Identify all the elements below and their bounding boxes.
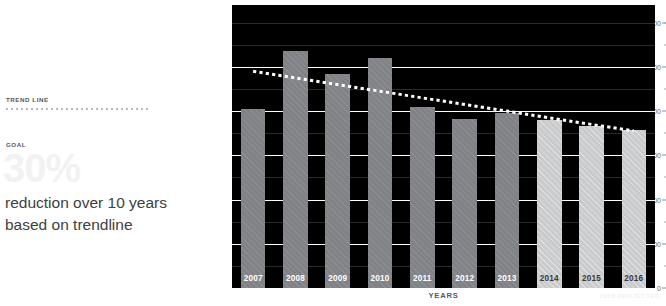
bar-year-label: 2016 <box>622 274 647 283</box>
plot-area: 2007200820092010201120122013201420152016 <box>232 5 655 288</box>
bar-year-label: 2011 <box>410 274 435 283</box>
bar: 2009 <box>325 74 350 288</box>
trend-line-legend-swatch <box>6 108 148 110</box>
bar: 2010 <box>368 58 393 288</box>
gridline-minor <box>232 45 655 46</box>
y-tick-mark <box>662 288 666 289</box>
bar: 2016 <box>622 130 647 288</box>
x-axis-title: YEARS <box>232 291 655 300</box>
trend-line-legend-label: TREND LINE <box>6 96 49 103</box>
bar-year-label: 2015 <box>579 274 604 283</box>
emissions-chart: TONNES CO2e 02,0004,0006,0008,00010,0001… <box>195 0 666 306</box>
y-tick-label: 0 <box>657 285 661 292</box>
bar: 2007 <box>241 109 266 288</box>
bar-year-label: 2009 <box>325 274 350 283</box>
bar: 2012 <box>452 119 477 288</box>
bar-year-label: 2010 <box>368 274 393 283</box>
bar-year-label: 2013 <box>495 274 520 283</box>
bar: 2013 <box>495 113 520 288</box>
projected-note: 2016 PROJECTED <box>600 292 660 299</box>
y-tick-mark <box>662 243 666 244</box>
goal-percentage: 30% <box>3 148 80 188</box>
y-tick-mark <box>662 66 666 67</box>
bar: 2015 <box>579 126 604 289</box>
goal-description: reduction over 10 years based on trendli… <box>5 192 195 236</box>
bar-year-label: 2008 <box>283 274 308 283</box>
gridline-minor <box>232 23 655 24</box>
bar-year-label: 2014 <box>537 274 562 283</box>
bar: 2014 <box>537 120 562 288</box>
y-tick-mark <box>662 199 666 200</box>
y-tick-mark <box>662 155 666 156</box>
y-tick-mark <box>662 111 666 112</box>
bar-year-label: 2007 <box>241 274 266 283</box>
bar: 2011 <box>410 107 435 288</box>
bar: 2008 <box>283 51 308 288</box>
annotation-panel: TREND LINE GOAL 30% reduction over 10 ye… <box>0 0 195 306</box>
bar-year-label: 2012 <box>452 274 477 283</box>
